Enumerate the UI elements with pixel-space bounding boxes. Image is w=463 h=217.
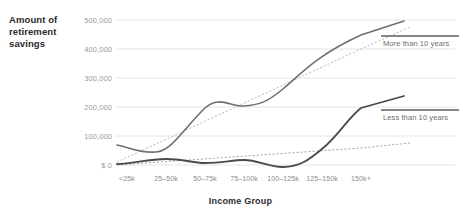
x-axis-title: Income Group [0, 196, 463, 206]
series-line-less-than-10-years-trend [117, 143, 410, 165]
series-line-more-than-10-years-trend [117, 27, 410, 162]
legend-item-less-than-10-years: Less than 10 years [383, 113, 448, 122]
x-tick-label-6: 150k+ [338, 175, 384, 182]
series-line-more-than-10-years [117, 21, 404, 152]
retirement-savings-chart: Amount of retirement savings 500,000 400… [0, 0, 463, 217]
x-axis-title-text: Income Group [209, 196, 272, 206]
legend-item-more-than-10-years: More than 10 years [383, 39, 449, 48]
chart-plot-area [0, 0, 463, 217]
